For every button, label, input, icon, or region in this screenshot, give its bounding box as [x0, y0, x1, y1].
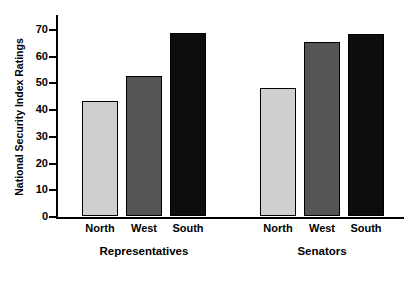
y-tick-label-0: 0	[18, 211, 48, 222]
x-label-senators-south: South	[338, 222, 394, 234]
y-tick-40	[49, 109, 56, 111]
bar-representatives-north	[82, 101, 118, 216]
y-tick-30	[49, 136, 56, 138]
y-tick-70	[49, 29, 56, 31]
y-tick-label-30: 30	[18, 131, 48, 142]
bar-senators-south	[348, 34, 384, 216]
y-tick-label-70: 70	[18, 24, 48, 35]
x-axis-line	[56, 217, 404, 219]
y-tick-20	[49, 163, 56, 165]
y-tick-10	[49, 189, 56, 191]
y-tick-label-40: 40	[18, 104, 48, 115]
group-label-representatives: Representatives	[42, 245, 246, 257]
y-axis-tick-labels: 010203040506070	[18, 15, 48, 218]
bar-representatives-west	[126, 76, 162, 216]
bar-senators-north	[260, 88, 296, 216]
y-tick-0	[49, 216, 56, 218]
y-axis-line	[56, 15, 58, 219]
bar-representatives-south	[170, 33, 206, 216]
y-tick-label-20: 20	[18, 158, 48, 169]
y-tick-label-50: 50	[18, 77, 48, 88]
y-tick-label-60: 60	[18, 51, 48, 62]
plot-area	[56, 15, 404, 218]
y-tick-50	[49, 82, 56, 84]
y-tick-label-10: 10	[18, 184, 48, 195]
y-tick-60	[49, 56, 56, 58]
x-label-representatives-south: South	[160, 222, 216, 234]
bar-senators-west	[304, 42, 340, 216]
group-label-senators: Senators	[220, 245, 418, 257]
bar-chart: National Security Index Ratings 01020304…	[0, 0, 418, 287]
